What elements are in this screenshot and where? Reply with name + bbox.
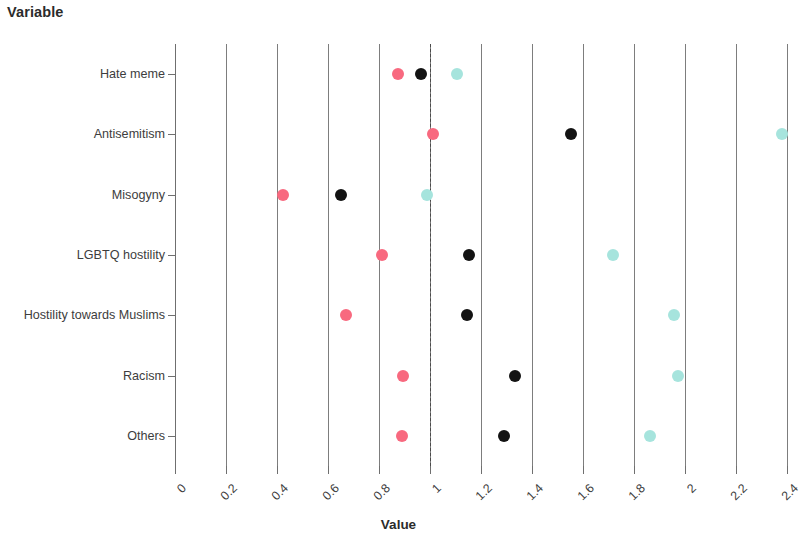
gridline <box>685 44 686 466</box>
y-axis-tick-label: Hostility towards Muslims <box>0 308 165 322</box>
gridline <box>736 44 737 466</box>
gridline <box>328 44 329 466</box>
gridline <box>634 44 635 466</box>
x-axis-tick <box>277 466 278 474</box>
data-point <box>644 430 656 442</box>
x-axis-tick <box>583 466 584 474</box>
y-axis-tick-label: Hate meme <box>0 67 165 81</box>
gridline <box>277 44 278 466</box>
x-axis-tick <box>430 466 431 474</box>
y-axis-tick <box>168 315 175 316</box>
gridline <box>175 44 176 466</box>
gridline <box>787 44 788 466</box>
gridline <box>532 44 533 466</box>
x-axis-tick <box>634 466 635 474</box>
data-point <box>607 249 619 261</box>
data-point <box>461 309 473 321</box>
x-axis-tick <box>481 466 482 474</box>
gridline <box>226 44 227 466</box>
reference-line <box>430 44 431 466</box>
x-axis-tick <box>226 466 227 474</box>
data-point <box>509 370 521 382</box>
x-axis-tick <box>175 466 176 474</box>
x-axis-tick <box>736 466 737 474</box>
data-point <box>415 68 427 80</box>
data-point <box>335 189 347 201</box>
y-axis-tick-label: Misogyny <box>0 188 165 202</box>
x-axis-tick <box>379 466 380 474</box>
data-point <box>397 370 409 382</box>
data-point <box>427 128 439 140</box>
x-axis-title: Value <box>0 517 797 532</box>
plot-area <box>175 44 787 466</box>
data-point <box>776 128 788 140</box>
data-point <box>277 189 289 201</box>
y-axis-tick <box>168 436 175 437</box>
chart-legend-heading: Variable <box>7 4 63 20</box>
gridline <box>481 44 482 466</box>
y-axis-tick <box>168 134 175 135</box>
gridline <box>583 44 584 466</box>
y-axis-tick-label: Others <box>0 429 165 443</box>
y-axis-tick <box>168 74 175 75</box>
data-point <box>396 430 408 442</box>
x-axis-tick <box>685 466 686 474</box>
data-point <box>565 128 577 140</box>
data-point <box>451 68 463 80</box>
y-axis-tick <box>168 195 175 196</box>
data-point <box>498 430 510 442</box>
y-axis-tick <box>168 255 175 256</box>
data-point <box>421 189 433 201</box>
data-point <box>376 249 388 261</box>
data-point <box>672 370 684 382</box>
x-axis-tick <box>328 466 329 474</box>
data-point <box>668 309 680 321</box>
data-point <box>463 249 475 261</box>
data-point <box>340 309 352 321</box>
data-point <box>392 68 404 80</box>
y-axis-tick-label: Antisemitism <box>0 127 165 141</box>
y-axis-tick-label: LGBTQ hostility <box>0 248 165 262</box>
x-axis-tick <box>787 466 788 474</box>
y-axis-tick-label: Racism <box>0 369 165 383</box>
y-axis-tick <box>168 376 175 377</box>
x-axis-tick <box>532 466 533 474</box>
